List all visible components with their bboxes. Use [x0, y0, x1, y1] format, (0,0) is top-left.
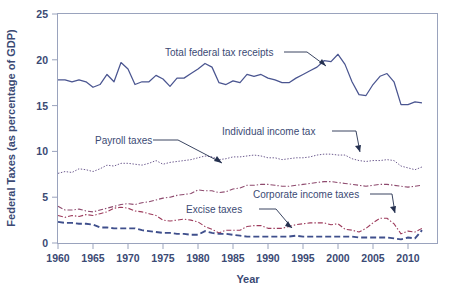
- x-tick-label-1980: 1980: [186, 252, 210, 264]
- x-tick-label-1990: 1990: [256, 252, 280, 264]
- x-tick-label-1970: 1970: [116, 252, 140, 264]
- x-tick-label-1960: 1960: [46, 252, 70, 264]
- leader-corporate: [370, 194, 395, 213]
- y-tick-label-25: 25: [36, 8, 48, 20]
- annotation-total-federal: Total federal tax receipts: [165, 47, 273, 58]
- arrowhead-excise: [285, 221, 292, 228]
- annotation-individual: Individual income tax: [222, 126, 315, 137]
- arrowhead-corporate: [390, 206, 396, 213]
- y-tick-label-15: 15: [36, 100, 48, 112]
- y-axis: 0510152025: [36, 8, 58, 249]
- x-tick-label-1985: 1985: [221, 252, 245, 264]
- leader-payroll: [153, 140, 222, 163]
- x-tick-label-1975: 1975: [151, 252, 175, 264]
- x-tick-label-1965: 1965: [81, 252, 105, 264]
- annotation-leaders: [153, 52, 396, 228]
- y-tick-label-0: 0: [42, 237, 48, 249]
- leader-individual: [332, 131, 360, 152]
- federal-taxes-line-chart: 0510152025 19601965197019751980198519901…: [0, 0, 463, 289]
- y-tick-label-20: 20: [36, 54, 48, 66]
- series-line-payroll-taxes: [58, 154, 422, 173]
- arrowhead-individual: [355, 145, 361, 152]
- x-axis: 1960196519701975198019851990199520002005…: [46, 243, 420, 264]
- annotation-corporate: Corporate income taxes: [253, 189, 359, 200]
- series-line-total-federal-tax-receipts: [58, 54, 422, 104]
- x-tick-label-2000: 2000: [326, 252, 350, 264]
- chart-container: 0510152025 19601965197019751980198519901…: [0, 0, 463, 289]
- x-tick-label-2010: 2010: [396, 252, 420, 264]
- x-tick-label-1995: 1995: [291, 252, 315, 264]
- y-tick-label-10: 10: [36, 145, 48, 157]
- arrowhead-payroll: [214, 156, 222, 163]
- x-axis-title: Year: [236, 273, 260, 285]
- annotation-excise: Excise taxes: [186, 204, 242, 215]
- x-tick-label-2005: 2005: [361, 252, 385, 264]
- annotation-payroll: Payroll taxes: [95, 135, 152, 146]
- y-axis-title: Federal Taxes (as percentage of GDP): [5, 29, 17, 227]
- y-tick-label-5: 5: [42, 191, 48, 203]
